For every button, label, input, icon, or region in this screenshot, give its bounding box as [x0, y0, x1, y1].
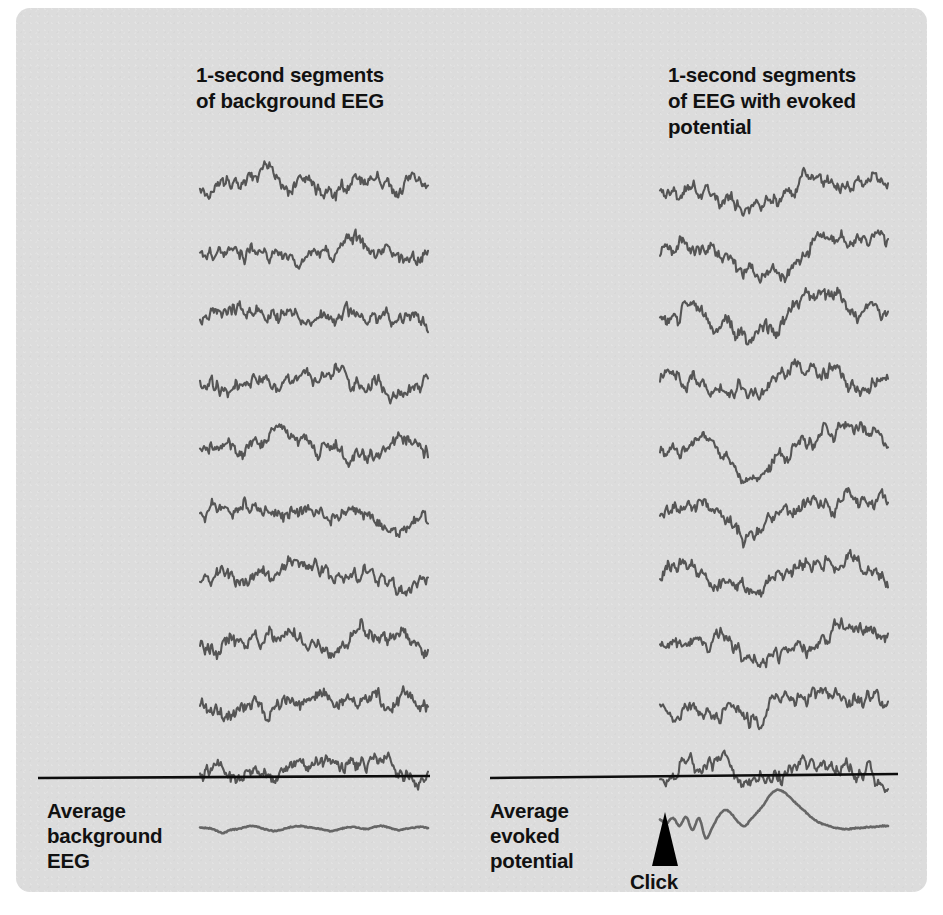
eeg-segment-trace: [200, 497, 428, 537]
eeg-segment-trace: [200, 556, 428, 595]
click-marker-label: Click: [630, 870, 678, 894]
average-background-label: Average background EEG: [47, 798, 217, 873]
eeg-segment-trace: [660, 618, 888, 667]
eeg-segment-trace: [660, 751, 888, 792]
right-divider-rule: [490, 774, 898, 778]
eeg-segment-trace: [200, 230, 428, 269]
eeg-segment-trace: [660, 550, 888, 597]
eeg-trace-layer: [0, 0, 943, 915]
average-evoked-label: Average evoked potential: [490, 798, 645, 873]
average-background-eeg-trace: [200, 826, 428, 834]
eeg-segment-trace: [200, 364, 428, 404]
left-divider-rule: [38, 776, 430, 778]
eeg-signal-averaging-figure: 1-second segments of background EEG 1-se…: [0, 0, 943, 915]
eeg-segment-trace: [660, 168, 888, 216]
eeg-segment-trace: [200, 686, 428, 721]
left-segment-traces: [200, 161, 428, 789]
eeg-segment-trace: [200, 619, 428, 659]
eeg-segment-trace: [660, 488, 888, 548]
eeg-segment-trace: [200, 424, 428, 467]
eeg-segment-trace: [660, 422, 888, 483]
eeg-segment-trace: [200, 301, 428, 332]
eeg-segment-trace: [660, 359, 888, 399]
average-evoked-potential-trace: [660, 790, 888, 839]
eeg-segment-trace: [660, 230, 888, 282]
eeg-segment-trace: [200, 753, 428, 790]
eeg-segment-trace: [660, 288, 888, 345]
right-segment-traces: [660, 168, 888, 792]
eeg-segment-trace: [660, 688, 888, 730]
eeg-segment-trace: [200, 161, 428, 200]
